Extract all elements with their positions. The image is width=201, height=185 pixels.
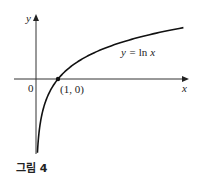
point-label: (1, 0): [60, 83, 84, 96]
origin-label: 0: [28, 82, 34, 94]
y-axis-label: y: [25, 12, 31, 24]
ln-graph: y x 0 (1, 0) y = ln x: [0, 0, 201, 185]
curve-label-var: x: [147, 46, 155, 58]
curve-label-prefix: y =: [120, 46, 139, 58]
x-axis-label: x: [181, 82, 187, 94]
figure-caption: 그림 4: [16, 159, 47, 175]
curve-label: y = ln x: [120, 46, 155, 58]
y-axis-arrow-icon: [33, 14, 39, 21]
point-1-0: [56, 77, 60, 81]
